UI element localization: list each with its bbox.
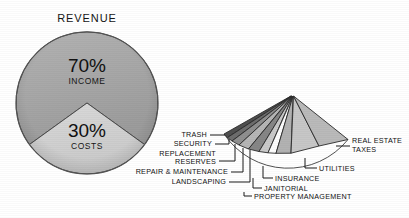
leader-insurance [263,166,273,178]
leader-landscaping [229,150,250,182]
pie-costs-label: COSTS [71,141,103,151]
pie-costs-value: 30% [68,120,106,141]
leader-janitorial [253,178,262,188]
label-utilities: UTILITIES [319,164,355,173]
label-taxes: TAXES [352,145,376,154]
leader-security [215,139,229,144]
pie-income-label: INCOME [69,76,106,86]
page-title: REVENUE [57,12,116,24]
pie-outline [16,32,158,174]
pie-income-value: 70% [68,55,106,76]
label-security: SECURITY [174,139,212,148]
label-repair-maintenance: REPAIR & MAINTENANCE [136,167,228,176]
revenue-cost-figure: REVENUE 70% INCOME 30% COSTS [0,0,409,218]
revenue-pie: 70% INCOME 30% COSTS [16,32,158,174]
leader-property-management [244,192,252,196]
label-insurance: INSURANCE [275,174,320,183]
figure-canvas: REVENUE 70% INCOME 30% COSTS [0,0,409,218]
label-real-estate: REAL ESTATE [352,136,402,145]
leader-replacement-reserves [219,144,235,161]
label-reserves: RESERVES [175,157,216,166]
label-landscaping: LANDSCAPING [172,177,226,186]
leader-repair-maintenance [231,148,243,172]
label-trash: TRASH [181,130,207,139]
label-property-management: PROPERTY MANAGEMENT [254,192,352,201]
